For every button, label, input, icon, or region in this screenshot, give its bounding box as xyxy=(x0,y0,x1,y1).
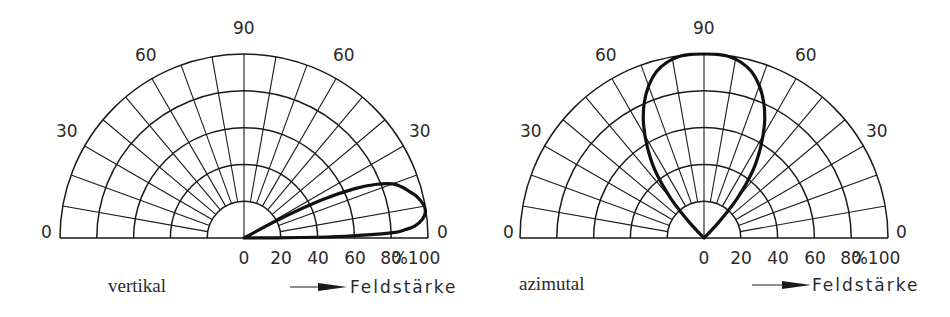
angle-label-left-30: 30 xyxy=(520,121,542,141)
radial-tick-label: 60 xyxy=(804,248,826,268)
radial-line-160 xyxy=(71,175,209,225)
radial-line-40 xyxy=(272,120,385,215)
radial-line-130 xyxy=(126,97,221,210)
angle-label-right-0: 0 xyxy=(896,222,907,242)
angle-label-right-60: 60 xyxy=(795,45,817,65)
vertical-polar-diagram: 0 30 60 90 60 30 0 020406080%100 Feldstä… xyxy=(41,18,457,297)
radial-line-120 xyxy=(612,79,686,206)
radial-line-20 xyxy=(739,175,877,225)
radial-line-80 xyxy=(710,57,736,202)
radial-line-100 xyxy=(212,57,238,202)
angle-label-left-0: 0 xyxy=(503,222,514,242)
diagram-caption: azimutal xyxy=(519,273,584,294)
radial-tick-label: %100 xyxy=(392,248,441,268)
radial-line-110 xyxy=(181,65,231,203)
polar-diagrams: 0 30 60 90 60 30 0 020406080%100 Feldstä… xyxy=(0,0,950,317)
angle-label-top-90: 90 xyxy=(693,18,715,38)
arrow-head-icon xyxy=(782,281,811,289)
radial-line-80 xyxy=(250,57,276,202)
axis-label-feldstaerke: Feldstärke xyxy=(812,275,919,295)
angle-label-top-90: 90 xyxy=(233,18,255,38)
radial-line-60 xyxy=(262,79,336,206)
radial-tick-label: %100 xyxy=(852,248,901,268)
radial-line-120 xyxy=(152,79,226,206)
diagram-caption: vertikal xyxy=(108,275,166,296)
radial-line-20 xyxy=(279,175,417,225)
radial-line-140 xyxy=(103,120,216,215)
angle-label-right-60: 60 xyxy=(333,45,355,65)
azimuthal-polar-diagram: 0 30 60 90 60 30 0 020406080%100 Feldstä… xyxy=(503,18,919,295)
radial-line-150 xyxy=(85,146,212,220)
angle-label-right-30: 30 xyxy=(409,121,431,141)
angle-label-left-0: 0 xyxy=(41,222,52,242)
radial-line-140 xyxy=(563,120,676,215)
radial-line-50 xyxy=(268,97,363,210)
radial-tick-label: 20 xyxy=(270,248,292,268)
radial-line-150 xyxy=(545,146,672,220)
radial-line-10 xyxy=(740,206,885,232)
radial-tick-label: 0 xyxy=(239,248,250,268)
radial-tick-labels: 020406080%100 xyxy=(699,248,901,268)
radial-tick-label: 40 xyxy=(307,248,329,268)
radial-line-170 xyxy=(523,206,668,232)
polar-grid xyxy=(60,54,428,238)
angle-label-left-60: 60 xyxy=(595,45,617,65)
radial-line-100 xyxy=(672,57,698,202)
radial-tick-label: 60 xyxy=(344,248,366,268)
radial-tick-label: 20 xyxy=(730,248,752,268)
angle-label-right-0: 0 xyxy=(437,222,448,242)
radial-line-60 xyxy=(722,79,796,206)
axis-label-feldstaerke: Feldstärke xyxy=(350,277,457,297)
radial-line-160 xyxy=(531,175,669,225)
polar-grid xyxy=(520,54,888,238)
angle-label-left-30: 30 xyxy=(56,121,78,141)
angle-label-right-30: 30 xyxy=(866,121,888,141)
radial-line-30 xyxy=(736,146,863,220)
arrow-head-icon xyxy=(318,283,347,291)
radial-tick-label: 40 xyxy=(767,248,789,268)
radial-line-40 xyxy=(732,120,845,215)
radial-line-70 xyxy=(257,65,307,203)
radial-tick-labels: 020406080%100 xyxy=(239,248,441,268)
angle-label-left-60: 60 xyxy=(135,45,157,65)
radial-tick-label: 0 xyxy=(699,248,710,268)
radial-line-170 xyxy=(63,206,208,232)
